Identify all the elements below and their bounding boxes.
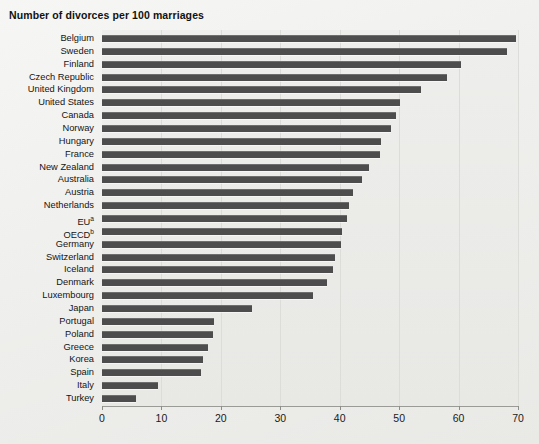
bar-row <box>102 353 518 366</box>
bar-row <box>102 276 518 289</box>
bar <box>102 99 400 106</box>
bar-row <box>102 83 518 96</box>
bar <box>102 382 158 389</box>
bar-row <box>102 225 518 238</box>
bar <box>102 202 349 209</box>
bar-row <box>102 315 518 328</box>
category-label: Belgium <box>60 32 94 45</box>
bar <box>102 48 507 55</box>
category-label: OECDb <box>63 225 94 238</box>
x-axis-tick <box>399 406 400 410</box>
category-label: Germany <box>56 238 94 251</box>
bar <box>102 74 447 81</box>
category-label: Greece <box>64 341 95 354</box>
x-axis-tick-label: 30 <box>274 412 286 424</box>
bar-row <box>102 96 518 109</box>
x-axis-line <box>102 406 518 407</box>
plot-area <box>102 30 519 406</box>
category-label: Switzerland <box>46 251 94 264</box>
category-label: Czech Republic <box>29 71 94 84</box>
bar-row <box>102 392 518 405</box>
x-axis-tick-label: 70 <box>512 412 524 424</box>
bar-row <box>102 251 518 264</box>
category-label: Denmark <box>56 276 94 289</box>
bar <box>102 86 421 93</box>
bar <box>102 164 369 171</box>
x-axis-tick <box>340 406 341 410</box>
category-label: Luxembourg <box>42 289 94 302</box>
category-label: Norway <box>62 122 94 135</box>
category-label: Austria <box>65 186 94 199</box>
bar <box>102 35 516 42</box>
bar-row <box>102 238 518 251</box>
category-label: Iceland <box>64 263 94 276</box>
bar <box>102 138 381 145</box>
x-axis-tick-label: 50 <box>393 412 405 424</box>
bar-row <box>102 122 518 135</box>
bar-row <box>102 199 518 212</box>
bar <box>102 395 136 402</box>
category-label: United Kingdom <box>28 83 94 96</box>
category-label: Italy <box>77 379 94 392</box>
x-axis-tick <box>280 406 281 410</box>
bar <box>102 369 201 376</box>
category-label: Spain <box>70 366 94 379</box>
gridline <box>518 30 519 406</box>
bar <box>102 254 335 261</box>
bar <box>102 356 203 363</box>
category-label: Netherlands <box>44 199 94 212</box>
category-label: New Zealand <box>39 161 94 174</box>
x-axis-tick-label: 10 <box>156 412 168 424</box>
bar <box>102 305 252 312</box>
x-axis-tick <box>221 406 222 410</box>
bar-row <box>102 302 518 315</box>
chart-root: Number of divorces per 100 marriages Bel… <box>0 0 539 444</box>
x-axis-tick-label: 40 <box>334 412 346 424</box>
bar-row <box>102 173 518 186</box>
category-label: United States <box>38 96 94 109</box>
category-label: EUa <box>77 212 94 225</box>
bar-row <box>102 109 518 122</box>
category-label: Portugal <box>59 315 94 328</box>
x-axis-tick <box>161 406 162 410</box>
category-label: Poland <box>65 328 94 341</box>
bar <box>102 344 208 351</box>
bar <box>102 112 396 119</box>
bar <box>102 61 461 68</box>
x-axis-tick-label: 20 <box>215 412 227 424</box>
x-axis-tick-label: 0 <box>99 412 105 424</box>
category-label: Hungary <box>59 135 94 148</box>
bar-row <box>102 263 518 276</box>
category-label: Japan <box>69 302 94 315</box>
x-axis-tick-label: 60 <box>453 412 465 424</box>
bar <box>102 176 362 183</box>
bar <box>102 331 213 338</box>
bar-row <box>102 289 518 302</box>
category-label: Sweden <box>60 45 94 58</box>
category-label: Canada <box>61 109 94 122</box>
bar <box>102 266 333 273</box>
bar <box>102 241 341 248</box>
plot-wrapper: BelgiumSwedenFinlandCzech RepublicUnited… <box>0 0 539 444</box>
bar-row <box>102 186 518 199</box>
bar <box>102 279 327 286</box>
bar <box>102 189 353 196</box>
bar <box>102 125 391 132</box>
category-label: Finland <box>64 58 95 71</box>
bar <box>102 151 380 158</box>
bar-row <box>102 379 518 392</box>
bar <box>102 228 342 235</box>
bar <box>102 318 214 325</box>
bar-row <box>102 366 518 379</box>
bar-row <box>102 58 518 71</box>
bar-row <box>102 135 518 148</box>
footnote-marker: a <box>90 215 94 222</box>
x-axis-tick <box>102 406 103 410</box>
x-axis-tick <box>518 406 519 410</box>
bar-row <box>102 161 518 174</box>
category-labels: BelgiumSwedenFinlandCzech RepublicUnited… <box>0 30 98 406</box>
bar <box>102 215 347 222</box>
x-axis-tick <box>459 406 460 410</box>
bar-row <box>102 148 518 161</box>
category-label: Korea <box>69 353 94 366</box>
